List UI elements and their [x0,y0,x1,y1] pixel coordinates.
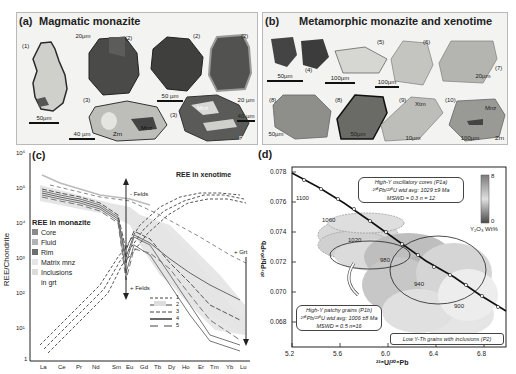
grain-label-1: (1) [22,43,29,49]
ytick-1e3: 10³ [16,255,25,261]
xtick-tm: Tm [210,364,219,370]
ytick-1e5: 10⁵ [16,185,25,191]
grain-label-6: (6) [423,39,430,45]
mineral-label-mnz-2: Mnz [197,105,208,111]
legend-title: REE in monazite [32,218,91,228]
panel-a-magmatic-monazite: (a) Magmatic monazite (1) 50µm (2) 20µm … [16,12,258,145]
ytick-1e1: 10¹ [16,325,25,331]
line-legend-4: 4 [176,315,179,322]
legend-item-core: Core [32,228,91,238]
xenotime-annotation: REE in xenotime [176,171,231,178]
grain-image-3 [147,35,207,95]
line-legend: 1 2 3 4 5 [176,294,179,329]
xtick-eu: Eu [126,364,133,370]
panel-b-title: Metamorphic monazite and xenotime [299,15,492,27]
grain-label-5: (5) [377,39,384,45]
colorbar-max: 8 [491,173,494,179]
line-legend-1: 1 [176,294,179,301]
d-xtick-68: 6.8 [477,350,486,357]
xtick-gd: Gd [140,364,148,370]
xtick-ho: Ho [182,364,190,370]
colorbar-min: 0 [491,218,494,224]
grain-label-8a: (8) [269,97,276,103]
scale-bar-3a: 40 µm [69,131,95,140]
d-ytick-0078: 0.078 [270,168,286,175]
xtick-lu: Lu [240,364,247,370]
grain-image-5 [87,99,169,143]
scale-bar-3b: 40 µm [237,113,255,122]
line-legend-3: 3 [176,308,179,315]
monazite-legend: REE in monazite Core Fluid Rim Matrix mn… [32,218,91,288]
age-1100: 1100 [296,195,309,201]
d-xtick-56: 5.6 [333,350,342,357]
age-980: 980 [380,257,390,263]
xtick-la: La [40,364,47,370]
ytick-1e2: 10² [16,290,25,296]
ytick-1e4: 10⁴ [16,220,25,226]
grain-label-2b: (2) [193,33,200,39]
d-ytick-0072: 0.072 [270,258,286,265]
d-xtick-60: 6.0 [381,350,390,357]
grain-image-1 [27,41,75,113]
grt-annotation: + Grt [234,249,248,255]
d-x-axis-label: ²³⁸U/²⁰⁶Pb [376,359,408,367]
mineral-label-zrn-b: Zrn [495,135,504,141]
age-1060: 1060 [322,217,335,223]
d-xtick-64: 6.4 [429,350,438,357]
scale-bar-8b: 50µm [349,131,367,137]
scale-bar-5: 100µm [325,75,355,84]
panel-a-title: Magmatic monazite [39,15,140,27]
xtick-yb: Yb [226,364,233,370]
xtick-sm: Sm [112,364,121,370]
d-y-axis-label: ²⁰⁷Pb/²⁰⁶Pb [260,241,268,278]
felds-up-annotation: - Felds [130,191,148,197]
annotation-box-p1b: High-Y patchy grains (P1b) ²⁰⁶Pb/²³⁸U wt… [296,305,382,331]
grain-label-10: (10) [445,97,456,103]
xtick-tb: Tb [154,364,161,370]
ytick-1e6: 10⁶ [16,150,25,156]
d-ytick-0074: 0.074 [270,228,286,235]
panel-d-concordia: (d) [258,145,516,374]
scale-bar-2a: 20µm [75,33,91,39]
d-ytick-0076: 0.076 [270,198,286,205]
legend-item-matrix: Matrix mnz [32,258,91,268]
scale-bar-8a: 50µm [267,131,285,137]
colorbar-label: Y₂O₃ Wt% [470,226,498,232]
mineral-label-pl: Pl [239,135,244,141]
annotation-box-p1a: High-Y oscillatory cores (P1a) ²⁰⁶Pb/²³⁸… [358,177,464,203]
mineral-label-mnz: Mnz [141,125,152,131]
line-legend-5: 5 [176,322,179,329]
grain-label-2a: (2) [125,35,132,41]
grain-image-2 [85,35,141,97]
mineral-label-xtm: Xtm [415,101,426,107]
age-1020: 1020 [348,237,361,243]
grain-label-8b: (8) [335,97,342,103]
xtick-dy: Dy [168,364,175,370]
annotation-box-p2: Low Y-Th grains with inclusions (P2) [390,333,504,345]
age-900: 900 [454,303,464,309]
y-axis-label: REE/Chondrite [2,233,11,286]
legend-item-inclusions: Inclusions [32,268,91,278]
grain-label-7: (7) [495,65,502,71]
scale-bar-6: 100µm [375,79,399,88]
scale-bar-10: 100µm [459,135,481,141]
d-ytick-0068: 0.068 [270,318,286,325]
grain-image-5b [331,45,389,75]
age-940: 940 [414,281,424,287]
d-xtick-52: 5.2 [285,350,294,357]
d-ytick-0070: 0.070 [270,288,286,295]
panel-b-letter: (b) [265,15,279,27]
panel-a-letter: (a) [19,15,32,27]
grain-label-9: (9) [399,97,406,103]
grain-image-4 [207,33,253,93]
legend-item-fluid: Fluid [32,238,91,248]
panel-b-metamorphic-monazite: (b) Metamorphic monazite and xenotime (4… [262,12,508,145]
grain-label-3b: (3) [170,112,177,118]
xtick-pr: Pr [76,364,82,370]
legend-item-rim: Rim [32,248,91,258]
ytick-1: 1 [24,356,27,362]
scale-bar-4: 50µm [267,73,303,82]
scale-bar-7: 20µm [475,73,491,79]
panel-c-ree-plot: (c) [0,145,258,374]
line-legend-2: 2 [176,301,179,308]
